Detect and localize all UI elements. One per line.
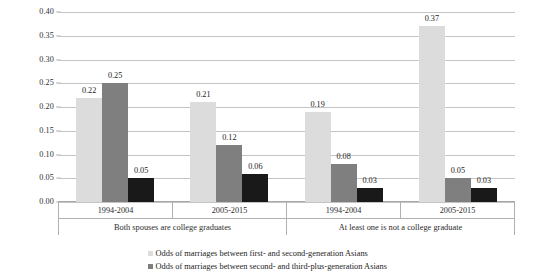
bar-slot: 0.03 bbox=[471, 12, 497, 202]
bar-slot: 0.37 bbox=[419, 12, 445, 202]
bar-value-label: 0.21 bbox=[196, 90, 210, 99]
group-label: At least one is not a college graduate bbox=[287, 219, 514, 235]
bar[interactable]: 0.03 bbox=[471, 188, 497, 202]
y-axis-tick-label: 0.25 bbox=[14, 79, 54, 87]
bar-slot: 0.05 bbox=[128, 12, 154, 202]
y-axis-tick-label: 0.35 bbox=[14, 32, 54, 40]
legend-label: Odds of marriages between second- and th… bbox=[156, 262, 387, 272]
bar-value-label: 0.12 bbox=[222, 133, 236, 142]
bar-group: 0.190.080.03 bbox=[287, 12, 401, 202]
category-label: 2005-2015 bbox=[401, 202, 514, 218]
bar-group: 0.210.120.06 bbox=[172, 12, 286, 202]
y-axis-tick-label: 0.20 bbox=[14, 103, 54, 111]
legend-swatch-icon bbox=[148, 251, 153, 256]
y-axis-tick-label: 0.40 bbox=[14, 8, 54, 16]
bar[interactable]: 0.12 bbox=[216, 145, 242, 202]
bar[interactable]: 0.08 bbox=[331, 164, 357, 202]
category-label: 1994-2004 bbox=[287, 202, 401, 218]
bar-group: 0.220.250.05 bbox=[58, 12, 172, 202]
y-axis-tick-label: 0.30 bbox=[14, 56, 54, 64]
bar-groups: 0.220.250.050.210.120.060.190.080.030.37… bbox=[58, 12, 515, 202]
bar[interactable]: 0.21 bbox=[190, 102, 216, 202]
bar-chart: 0.400.350.300.250.200.150.100.050.00 0.2… bbox=[0, 0, 540, 276]
legend-item[interactable]: Odds of marriages between first- and sec… bbox=[148, 248, 528, 259]
bar-value-label: 0.05 bbox=[451, 166, 465, 175]
chart-legend: Odds of marriages between first- and sec… bbox=[148, 248, 528, 274]
bar-value-label: 0.25 bbox=[108, 71, 122, 80]
y-axis-tick-label: 0.15 bbox=[14, 127, 54, 135]
legend-label: Odds of marriages between first- and sec… bbox=[156, 249, 368, 259]
bar[interactable]: 0.05 bbox=[128, 178, 154, 202]
bar[interactable]: 0.03 bbox=[357, 188, 383, 202]
category-axis: 1994-20042005-20151994-20042005-2015 Bot… bbox=[58, 202, 515, 235]
bar-slot: 0.12 bbox=[216, 12, 242, 202]
bar-slot: 0.03 bbox=[357, 12, 383, 202]
bar-value-label: 0.03 bbox=[477, 176, 491, 185]
y-axis-tick-label: 0.00 bbox=[14, 198, 54, 206]
legend-item[interactable]: Odds of marriages between second- and th… bbox=[148, 261, 528, 272]
bar[interactable]: 0.25 bbox=[102, 83, 128, 202]
bar[interactable]: 0.06 bbox=[242, 174, 268, 203]
y-axis: 0.400.350.300.250.200.150.100.050.00 bbox=[14, 12, 54, 202]
group-label-row: Both spouses are college graduatesAt lea… bbox=[59, 218, 514, 235]
y-axis-tick-label: 0.10 bbox=[14, 151, 54, 159]
bar[interactable]: 0.05 bbox=[445, 178, 471, 202]
bar-value-label: 0.05 bbox=[134, 166, 148, 175]
bar-slot: 0.25 bbox=[102, 12, 128, 202]
category-label-row: 1994-20042005-20151994-20042005-2015 bbox=[59, 202, 514, 218]
bar-slot: 0.19 bbox=[305, 12, 331, 202]
bar-value-label: 0.06 bbox=[248, 162, 262, 171]
bar-slot: 0.21 bbox=[190, 12, 216, 202]
bar-slot: 0.05 bbox=[445, 12, 471, 202]
bar-value-label: 0.08 bbox=[336, 152, 350, 161]
bar-slot: 0.08 bbox=[331, 12, 357, 202]
bar[interactable]: 0.19 bbox=[305, 112, 331, 202]
bar-slot: 0.22 bbox=[76, 12, 102, 202]
bar-group: 0.370.050.03 bbox=[401, 12, 515, 202]
bar[interactable]: 0.22 bbox=[76, 98, 102, 203]
y-axis-tick-label: 0.05 bbox=[14, 174, 54, 182]
bar-value-label: 0.19 bbox=[310, 100, 324, 109]
bar-slot: 0.06 bbox=[242, 12, 268, 202]
bar[interactable]: 0.37 bbox=[419, 26, 445, 202]
bar-value-label: 0.22 bbox=[82, 86, 96, 95]
legend-swatch-icon bbox=[148, 264, 153, 269]
bar-value-label: 0.03 bbox=[362, 176, 376, 185]
bar-value-label: 0.37 bbox=[425, 14, 439, 23]
plot-area: 0.220.250.050.210.120.060.190.080.030.37… bbox=[58, 12, 515, 202]
group-label: Both spouses are college graduates bbox=[59, 219, 287, 235]
category-label: 2005-2015 bbox=[173, 202, 287, 218]
category-label: 1994-2004 bbox=[59, 202, 173, 218]
